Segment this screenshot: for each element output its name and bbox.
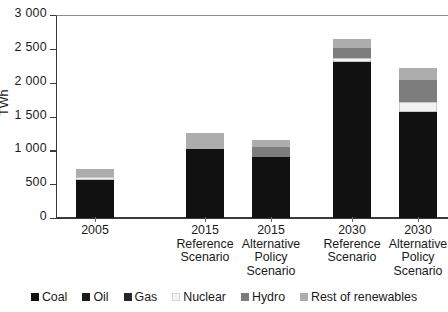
x-axis-label-line: Policy <box>228 251 314 265</box>
legend-swatch-icon <box>172 293 180 301</box>
y-axis-title: TWh <box>0 89 11 116</box>
x-axis-tick <box>205 217 206 222</box>
bar-segment-rest-of-renewables <box>399 68 437 80</box>
bar-segment-coal <box>252 157 290 218</box>
legend-label: Nuclear <box>183 290 226 304</box>
bar-segment-coal <box>186 149 224 218</box>
y-axis-tick-label: 0 <box>40 209 47 223</box>
x-axis-tick <box>418 217 419 222</box>
legend-item-rest-of-renewables[interactable]: Rest of renewables <box>300 290 417 304</box>
x-axis-label-line: Policy <box>375 251 448 265</box>
bar-2[interactable] <box>252 140 290 218</box>
legend-item-hydro[interactable]: Hydro <box>241 290 285 304</box>
bar-segment-rest-of-renewables <box>252 140 290 147</box>
legend-swatch-icon <box>124 293 132 301</box>
bar-0[interactable] <box>76 169 114 218</box>
x-axis-label-4: 2030AlternativePolicyScenario <box>375 224 448 278</box>
y-axis: 3 0002 5002 0001 5001 0005000 <box>0 15 56 218</box>
legend-item-oil[interactable]: Oil <box>82 290 108 304</box>
x-axis-tick <box>352 217 353 222</box>
legend-swatch-icon <box>31 293 39 301</box>
legend-label: Rest of renewables <box>311 290 417 304</box>
x-axis-label-0: 2005 <box>52 224 138 238</box>
stacked-bar-chart: 3 0002 5002 0001 5001 0005000 TWh 200520… <box>0 0 448 312</box>
legend-item-gas[interactable]: Gas <box>124 290 158 304</box>
x-axis-label-line: 2030 <box>375 224 448 238</box>
bar-segment-nuclear <box>399 102 437 112</box>
x-axis-label-line: 2005 <box>52 224 138 238</box>
y-axis-tick-label: 2 000 <box>14 74 47 88</box>
x-axis-label-line: Scenario <box>375 265 448 279</box>
legend-item-coal[interactable]: Coal <box>31 290 67 304</box>
legend-label: Hydro <box>252 290 285 304</box>
bar-3[interactable] <box>333 39 371 218</box>
y-axis-tick-label: 1 000 <box>14 141 47 155</box>
x-axis-label-line: Scenario <box>228 265 314 279</box>
x-axis-tick <box>95 217 96 222</box>
bar-segment-hydro <box>399 80 437 102</box>
legend-label: Gas <box>135 290 158 304</box>
x-axis-label-line: Alternative <box>375 238 448 252</box>
bar-segment-rest-of-renewables <box>76 169 114 178</box>
x-axis-tick <box>271 217 272 222</box>
y-axis-tick-label: 2 500 <box>14 40 47 54</box>
bar-4[interactable] <box>399 68 437 218</box>
bar-segment-hydro <box>333 48 371 58</box>
bar-segment-coal <box>333 62 371 218</box>
chart-legend: CoalOilGasNuclearHydroRest of renewables <box>0 290 448 304</box>
y-axis-tick-label: 3 000 <box>14 6 47 20</box>
y-axis-tick-label: 500 <box>25 175 47 189</box>
legend-label: Oil <box>93 290 108 304</box>
bar-segment-coal <box>399 112 437 218</box>
legend-swatch-icon <box>300 293 308 301</box>
bar-segment-hydro <box>252 147 290 157</box>
bar-1[interactable] <box>186 133 224 218</box>
x-axis-label-line: 2015 <box>228 224 314 238</box>
legend-label: Coal <box>42 290 67 304</box>
bar-segment-rest-of-renewables <box>186 133 224 149</box>
legend-item-nuclear[interactable]: Nuclear <box>172 290 226 304</box>
legend-swatch-icon <box>82 293 90 301</box>
x-axis-label-line: Alternative <box>228 238 314 252</box>
legend-swatch-icon <box>241 293 249 301</box>
x-axis-label-2: 2015AlternativePolicyScenario <box>228 224 314 278</box>
bar-segment-rest-of-renewables <box>333 39 371 47</box>
y-axis-tick-label: 1 500 <box>14 108 47 122</box>
bar-segment-coal <box>76 180 114 218</box>
